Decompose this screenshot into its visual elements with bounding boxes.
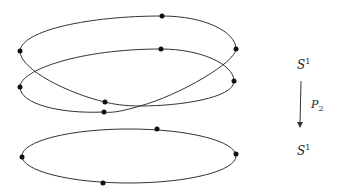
map-label: P2 xyxy=(311,98,324,113)
arrow-head-icon xyxy=(297,122,303,128)
top-space-label: S1 xyxy=(297,57,310,72)
covering-diagram xyxy=(0,0,342,193)
base-points xyxy=(20,127,239,186)
bottom-space-label: S1 xyxy=(297,143,310,158)
projection-arrow xyxy=(300,81,301,124)
double-cover-curve xyxy=(20,16,236,112)
base-circle xyxy=(22,129,236,183)
